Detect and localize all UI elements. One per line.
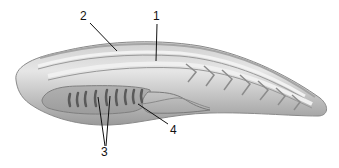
label-1: 1	[153, 10, 160, 22]
label-3: 3	[101, 146, 108, 158]
label-2: 2	[80, 10, 87, 22]
label-4: 4	[170, 124, 177, 136]
lancelet-diagram	[0, 0, 339, 168]
